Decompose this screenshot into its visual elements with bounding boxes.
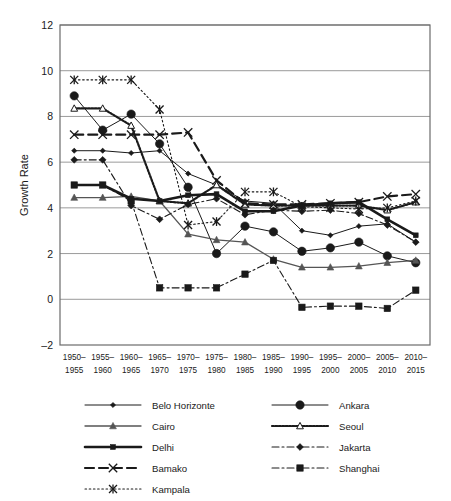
x-tick-label: 1965– bbox=[148, 353, 171, 362]
x-tick-label: 1985– bbox=[262, 353, 285, 362]
data-point-marker bbox=[385, 217, 390, 222]
x-tick-label: 1965 bbox=[122, 366, 141, 375]
x-tick-label: 2005 bbox=[350, 366, 369, 375]
chart-svg: 121086420–2 1950–19551955–19601960–19651… bbox=[0, 0, 451, 501]
y-axis-title: Growth Rate bbox=[18, 154, 30, 216]
x-tick-label: 1995– bbox=[319, 353, 342, 362]
data-point-marker bbox=[269, 228, 277, 236]
data-point-marker bbox=[155, 140, 163, 148]
x-tick-label: 1960– bbox=[120, 353, 143, 362]
x-tick-label: 1950– bbox=[63, 353, 86, 362]
data-point-marker bbox=[298, 247, 306, 255]
data-point-marker bbox=[241, 222, 249, 230]
x-tick-label: 1985 bbox=[236, 366, 255, 375]
x-tick-label: 1990 bbox=[264, 366, 283, 375]
x-tick-label: 1955 bbox=[65, 366, 84, 375]
y-axis-title-text: Growth Rate bbox=[18, 154, 30, 216]
y-tick-label: 2 bbox=[47, 248, 53, 260]
data-point-marker bbox=[186, 193, 191, 198]
figure-background bbox=[0, 0, 451, 501]
legend-label: Seoul bbox=[339, 421, 364, 432]
growth-rate-chart-figure: 121086420–2 1950–19551955–19601960–19651… bbox=[0, 0, 451, 501]
x-tick-label: 1970 bbox=[151, 366, 170, 375]
y-tick-label: 4 bbox=[47, 202, 53, 214]
y-tick-label: 12 bbox=[41, 19, 53, 31]
x-tick-label: 1960 bbox=[94, 366, 113, 375]
data-point-marker bbox=[242, 271, 248, 277]
legend-label: Shanghai bbox=[339, 463, 380, 474]
data-point-marker bbox=[71, 182, 77, 188]
data-point-marker bbox=[128, 198, 134, 204]
y-tick-label: 0 bbox=[47, 293, 53, 305]
x-tick-label: 2000– bbox=[347, 353, 370, 362]
data-point-marker bbox=[356, 303, 362, 309]
legend-label: Kampala bbox=[152, 484, 191, 495]
legend-label: Delhi bbox=[152, 442, 174, 453]
x-tick-label: 1990– bbox=[291, 353, 314, 362]
y-tick-label: –2 bbox=[41, 339, 53, 351]
data-point-marker bbox=[212, 249, 220, 257]
x-tick-label: 1980 bbox=[207, 366, 226, 375]
data-point-marker bbox=[355, 238, 363, 246]
x-tick-label: 2010 bbox=[378, 366, 397, 375]
x-tick-label: 2000 bbox=[321, 366, 340, 375]
x-tick-label: 2005– bbox=[376, 353, 399, 362]
data-point-marker bbox=[157, 199, 162, 204]
y-tick-label: 10 bbox=[41, 65, 53, 77]
data-point-marker bbox=[297, 465, 303, 471]
y-tick-label: 6 bbox=[47, 156, 53, 168]
data-point-marker bbox=[111, 445, 116, 450]
data-point-marker bbox=[327, 303, 333, 309]
data-point-marker bbox=[185, 285, 191, 291]
x-tick-label: 1975 bbox=[179, 366, 198, 375]
data-point-marker bbox=[70, 92, 78, 100]
data-point-marker bbox=[270, 257, 276, 263]
legend-label: Bamako bbox=[152, 463, 187, 474]
data-point-marker bbox=[326, 244, 334, 252]
data-point-marker bbox=[99, 182, 105, 188]
data-point-marker bbox=[384, 305, 390, 311]
data-point-marker bbox=[413, 287, 419, 293]
legend-label: Jakarta bbox=[339, 442, 371, 453]
data-point-marker bbox=[299, 304, 305, 310]
data-point-marker bbox=[413, 233, 418, 238]
x-tick-label: 1980– bbox=[234, 353, 257, 362]
x-tick-label: 1975– bbox=[205, 353, 228, 362]
data-point-marker bbox=[98, 126, 106, 134]
data-point-marker bbox=[156, 285, 162, 291]
legend-label: Cairo bbox=[152, 421, 175, 432]
data-point-marker bbox=[296, 401, 304, 409]
legend-label: Ankara bbox=[339, 400, 370, 411]
x-tick-label: 2010– bbox=[404, 353, 427, 362]
data-point-marker bbox=[213, 285, 219, 291]
x-tick-label: 1970– bbox=[177, 353, 200, 362]
y-tick-label: 8 bbox=[47, 110, 53, 122]
legend-label: Belo Horizonte bbox=[152, 400, 215, 411]
x-tick-label: 1955– bbox=[91, 353, 114, 362]
data-point-marker bbox=[184, 183, 192, 191]
x-tick-label: 2015 bbox=[407, 366, 426, 375]
x-tick-label: 1995 bbox=[293, 366, 312, 375]
data-point-marker bbox=[127, 110, 135, 118]
